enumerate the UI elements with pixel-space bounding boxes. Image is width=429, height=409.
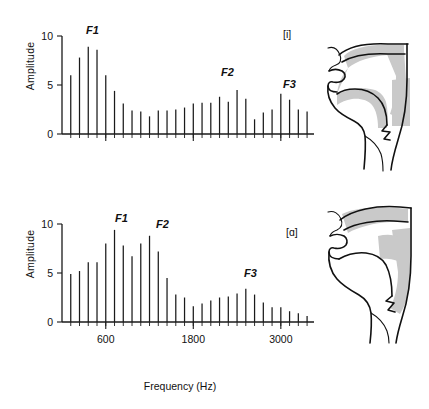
panel-vowel-a: Amplitude [ɑ] F1 F2 F3 051060018003000 [0,196,429,376]
svg-text:10: 10 [41,218,53,230]
svg-text:600: 600 [97,333,115,345]
svg-text:5: 5 [47,79,53,91]
svg-text:1800: 1800 [182,333,206,345]
x-axis-title: Frequency (Hz) [0,380,360,392]
svg-text:0: 0 [47,128,53,140]
spectrum-figure: Amplitude [i] F1 F2 F3 0510 [0,0,429,409]
svg-text:3000: 3000 [269,333,293,345]
spectrum-plot-top: 0510 [0,8,320,188]
vocal-tract-diagram-a [318,200,426,345]
svg-text:10: 10 [41,30,53,42]
panel-vowel-i: Amplitude [i] F1 F2 F3 0510 [0,8,429,188]
vocal-tract-diagram-i [318,28,426,173]
spectrum-plot-bottom: 051060018003000 [0,196,320,376]
svg-text:0: 0 [47,316,53,328]
svg-text:5: 5 [47,267,53,279]
